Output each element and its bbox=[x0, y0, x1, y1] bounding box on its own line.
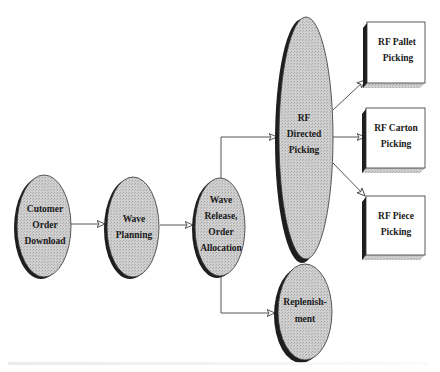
node-wave-release-order-allocation[interactable]: WaveRelease,OrderAllocation bbox=[192, 178, 245, 278]
edge-rf-to-piece bbox=[333, 163, 365, 196]
node-rf-carton-picking[interactable]: RF CartonPicking bbox=[362, 108, 425, 173]
edge-release-to-replenishment bbox=[221, 276, 275, 313]
node-label: Picking bbox=[383, 53, 414, 63]
node-replenishment[interactable]: Replenish-ment bbox=[274, 264, 332, 363]
node-label: RF Carton bbox=[374, 123, 418, 133]
node-label: Directed bbox=[287, 129, 322, 139]
node-label: Picking bbox=[381, 227, 412, 237]
node-label: RF Pallet bbox=[378, 37, 417, 47]
node-wave-planning[interactable]: WavePlanning bbox=[104, 177, 159, 279]
node-rf-directed-picking[interactable]: RFDirectedPicking bbox=[275, 17, 333, 263]
node-customer-order-download[interactable]: CutomerOrderDownload bbox=[14, 175, 71, 279]
node-label: ment bbox=[295, 314, 316, 324]
node-label: Planning bbox=[116, 230, 153, 240]
node-label: Wave bbox=[123, 214, 146, 224]
node-label: Order bbox=[208, 227, 234, 237]
node-label: Allocation bbox=[200, 243, 242, 253]
node-label: Replenish- bbox=[283, 297, 326, 307]
edge-rf-to-pallet bbox=[333, 80, 365, 110]
node-label: RF Piece bbox=[378, 211, 414, 221]
node-label: Cutomer bbox=[27, 204, 64, 214]
node-label: Wave bbox=[210, 195, 233, 205]
node-label: Download bbox=[24, 236, 66, 246]
node-label: Picking bbox=[381, 139, 412, 149]
edge-release-to-rf-directed bbox=[221, 137, 277, 179]
node-rf-piece-picking[interactable]: RF PiecePicking bbox=[362, 196, 425, 260]
node-label: Release, bbox=[205, 211, 239, 221]
cropped-caption-line bbox=[8, 362, 428, 365]
process-flow-diagram: CutomerOrderDownload WavePlanning WaveRe… bbox=[0, 0, 440, 372]
node-label: Order bbox=[32, 220, 58, 230]
node-label: Picking bbox=[289, 145, 320, 155]
node-rf-pallet-picking[interactable]: RF PalletPicking bbox=[363, 22, 425, 88]
node-label: RF bbox=[298, 113, 311, 123]
